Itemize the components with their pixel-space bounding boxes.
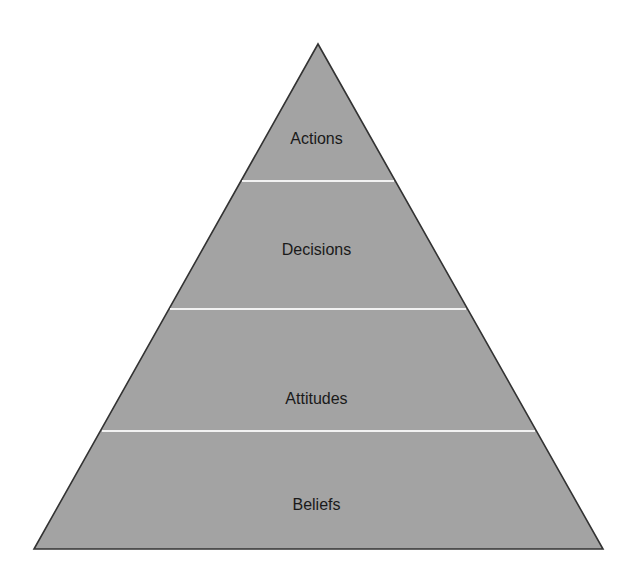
pyramid-shape (34, 44, 603, 549)
pyramid-diagram (0, 0, 633, 579)
